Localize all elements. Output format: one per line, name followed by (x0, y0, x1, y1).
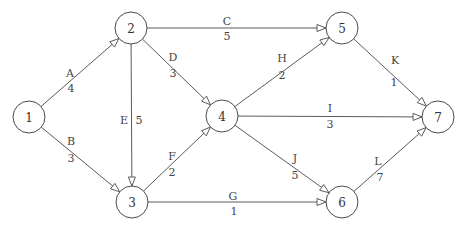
duration-label: 5 (292, 169, 299, 182)
duration-label: 3 (170, 67, 177, 80)
duration-label: 2 (279, 69, 286, 82)
duration-label: 5 (224, 30, 231, 43)
duration-label: 3 (327, 118, 334, 131)
edge-line (354, 39, 427, 106)
edge-j (235, 125, 329, 192)
node-3: 3 (116, 186, 148, 218)
activity-label: B (67, 135, 75, 148)
activity-label: A (65, 67, 75, 80)
edge-line (144, 127, 211, 191)
duration-label: 7 (377, 171, 384, 184)
arrowhead-icon (128, 177, 135, 186)
activity-label: D (169, 51, 178, 64)
activity-label: L (374, 155, 382, 168)
edge-c (147, 25, 326, 32)
edge-line (41, 127, 119, 192)
activity-label: I (328, 102, 332, 115)
duration-label: 1 (231, 205, 238, 218)
arrowhead-icon (320, 38, 329, 46)
edge-line (354, 128, 426, 192)
activity-label: G (229, 190, 238, 203)
activity-label: E (120, 114, 128, 127)
activity-label: F (168, 150, 176, 163)
node-5: 5 (326, 12, 358, 44)
node-label: 5 (338, 22, 346, 36)
edge-d (143, 39, 211, 105)
arrowhead-icon (317, 25, 326, 32)
edge-k (354, 39, 427, 106)
edge-line (235, 125, 329, 192)
arrowhead-icon (317, 199, 326, 206)
node-1: 1 (13, 101, 45, 133)
edge-a (41, 39, 119, 107)
duration-label: 5 (136, 114, 143, 127)
edge-e (128, 44, 135, 186)
duration-label: 2 (169, 166, 176, 179)
duration-label: 3 (68, 152, 75, 165)
node-7: 7 (422, 101, 454, 133)
edge-l (354, 128, 426, 192)
node-label: 3 (128, 196, 136, 210)
network-diagram: 1234567 A4B3C5D3E5F2G1H2I3J5K1L7 (0, 0, 466, 229)
node-label: 4 (218, 110, 226, 124)
activity-label: J (292, 152, 297, 165)
arrowhead-icon (413, 113, 422, 120)
activity-label: C (223, 15, 231, 28)
node-2: 2 (115, 12, 147, 44)
nodes-layer: 1234567 (13, 12, 454, 218)
edge-b (41, 127, 119, 192)
node-label: 1 (25, 111, 33, 125)
duration-label: 4 (68, 82, 75, 95)
activity-label: H (277, 52, 287, 65)
activity-label: K (391, 54, 400, 67)
edge-line (131, 44, 132, 186)
node-label: 7 (434, 111, 442, 125)
edge-line (143, 39, 211, 105)
arrowhead-icon (111, 183, 120, 191)
duration-label: 1 (391, 76, 398, 89)
node-4: 4 (206, 100, 238, 132)
edge-f (144, 127, 211, 191)
node-label: 2 (127, 22, 135, 36)
arrowhead-icon (320, 185, 329, 193)
node-label: 6 (338, 196, 346, 210)
node-6: 6 (326, 186, 358, 218)
edge-line (41, 39, 119, 107)
